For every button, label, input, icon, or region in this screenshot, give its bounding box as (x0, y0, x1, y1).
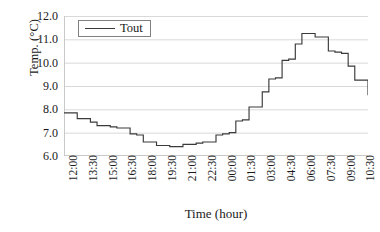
legend-label-tout: Tout (120, 22, 143, 34)
x-tick-label: 09:00 (346, 155, 357, 201)
x-axis-title: Time (hour) (64, 206, 368, 222)
legend-line-swatch-tout (85, 28, 115, 29)
x-tick-label: 15:00 (108, 155, 119, 201)
x-tick-label: 16:30 (127, 155, 138, 201)
y-tick-label: 11.0 (14, 33, 58, 45)
y-tick-label: 12.0 (14, 10, 58, 22)
x-tick-label: 18:00 (147, 155, 158, 201)
temperature-line-chart: Temp. (°C) 12.011.010.09.08.07.06.0 Tout… (0, 0, 380, 232)
plot-svg (64, 16, 368, 156)
x-tick-label: 13:30 (88, 155, 99, 201)
y-tick-label: 7.0 (14, 127, 58, 139)
y-tick-label: 8.0 (14, 103, 58, 115)
x-tick-label: 19:30 (167, 155, 178, 201)
x-tick-label: 12:00 (68, 155, 79, 201)
plot-area: Tout (64, 16, 368, 156)
x-tick-label: 10:30 (365, 155, 376, 201)
y-tick-label: 10.0 (14, 57, 58, 69)
series-line-tout (64, 34, 368, 147)
x-tick-label: 21:00 (187, 155, 198, 201)
x-tick-label: 06:00 (306, 155, 317, 201)
x-tick-label: 03:00 (266, 155, 277, 201)
x-tick-label: 04:30 (286, 155, 297, 201)
y-tick-label: 9.0 (14, 80, 58, 92)
legend[interactable]: Tout (78, 20, 151, 37)
x-tick-label: 00:00 (227, 155, 238, 201)
x-tick-label: 01:30 (246, 155, 257, 201)
y-axis-tick-labels: 12.011.010.09.08.07.06.0 (14, 16, 58, 156)
x-axis-tick-labels: 12:0013:3015:0016:3018:0019:3021:0022:30… (64, 157, 368, 203)
x-tick-label: 22:30 (207, 155, 218, 201)
y-tick-label: 6.0 (14, 150, 58, 162)
x-tick-label: 07:30 (326, 155, 337, 201)
